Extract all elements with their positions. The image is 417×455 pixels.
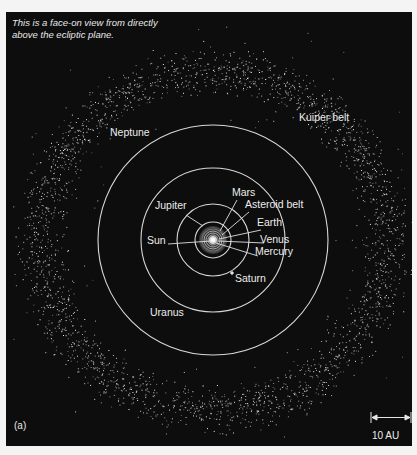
label-earth: Earth <box>257 216 282 228</box>
label-mercury: Mercury <box>255 245 293 257</box>
panel-label: (a) <box>14 420 26 431</box>
scale-bar-label: 10 AU <box>372 430 399 441</box>
label-saturn: Saturn <box>235 272 266 284</box>
label-sun: Sun <box>147 234 166 246</box>
saturn-marker <box>231 272 234 275</box>
label-uranus: Uranus <box>150 306 184 318</box>
label-asteroid-belt: Asteroid belt <box>245 198 303 210</box>
diagram-canvas <box>6 12 412 446</box>
solar-system-figure: This is a face-on view from directly abo… <box>6 12 412 446</box>
label-kuiper-belt: Kuiper belt <box>299 111 349 123</box>
inner-system-glow <box>199 226 227 254</box>
label-venus: Venus <box>260 233 289 245</box>
label-mars: Mars <box>232 186 255 198</box>
jupiter-leader <box>186 215 203 226</box>
label-neptune: Neptune <box>110 126 150 138</box>
figure-caption: This is a face-on view from directly abo… <box>12 17 212 41</box>
mars-leader <box>220 200 237 231</box>
scale-bar <box>371 412 411 423</box>
caption-line-1: This is a face-on view from directly <box>12 17 212 29</box>
caption-line-2: above the ecliptic plane. <box>12 29 212 41</box>
label-jupiter: Jupiter <box>155 199 187 211</box>
